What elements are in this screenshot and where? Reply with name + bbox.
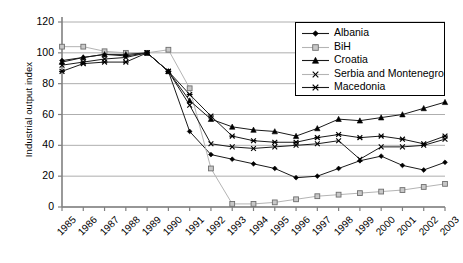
legend-label: BiH [331,40,351,53]
square-icon [300,40,331,53]
y-tick-label: 120 [24,15,54,27]
legend-label: Albania [331,26,369,39]
legend-item-croatia[interactable]: Croatia [300,53,440,67]
legend-label: Serbia and Montenegro [331,67,444,80]
legend-item-albania[interactable]: Albania [300,26,440,40]
legend-item-bih[interactable]: BiH [300,40,440,54]
legend-item-serbia-and-montenegro[interactable]: Serbia and Montenegro [300,67,440,81]
y-tick-label: 60 [24,108,54,120]
legend-label: Macedonia [331,80,385,93]
cross-icon [300,67,331,80]
y-tick-label: 0 [24,200,54,212]
chart-legend: Albania BiH Croatia Serbia and Montenegr… [295,22,445,96]
legend-label: Croatia [331,53,368,66]
y-tick-label: 100 [24,46,54,58]
triangle-icon [300,53,331,66]
asterisk-icon [300,80,331,93]
y-tick-label: 40 [24,138,54,150]
industrial-output-chart: Industrial output index Albania BiH Croa… [0,0,463,263]
y-tick-label: 20 [24,169,54,181]
diamond-icon [300,26,331,39]
y-tick-label: 80 [24,77,54,89]
legend-item-macedonia[interactable]: Macedonia [300,80,440,94]
